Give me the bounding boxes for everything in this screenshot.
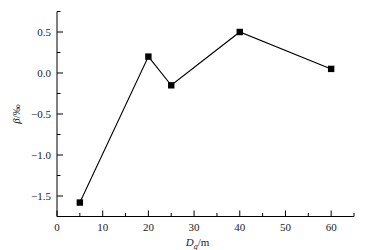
x-tick-label: 40 <box>234 221 246 233</box>
y-axis-title-text: β/‰ <box>10 104 22 125</box>
y-axis-title: β/‰ <box>10 104 22 125</box>
data-point-marker <box>77 199 83 205</box>
y-tick-label: 0.0 <box>37 67 51 79</box>
chart-figure: 0102030405060 0.50.0−0.5−1.0−1.5 Dg/m β/… <box>0 0 379 250</box>
x-tick-label: 50 <box>280 221 292 233</box>
x-tick-label: 20 <box>143 221 155 233</box>
x-tick-label: 0 <box>54 221 60 233</box>
y-tick-label: −0.5 <box>31 108 51 120</box>
data-point-marker <box>237 29 243 35</box>
data-point-marker <box>168 82 174 88</box>
x-tick-label: 30 <box>189 221 201 233</box>
data-point-marker <box>328 66 334 72</box>
y-tick-label: −1.0 <box>31 149 51 161</box>
y-tick-label: 0.5 <box>37 26 51 38</box>
data-point-marker <box>145 53 151 59</box>
y-tick-label: −1.5 <box>31 190 51 202</box>
chart-svg: 0102030405060 0.50.0−0.5−1.0−1.5 Dg/m β/… <box>0 0 379 250</box>
x-tick-label: 10 <box>97 221 109 233</box>
x-tick-label: 60 <box>326 221 338 233</box>
